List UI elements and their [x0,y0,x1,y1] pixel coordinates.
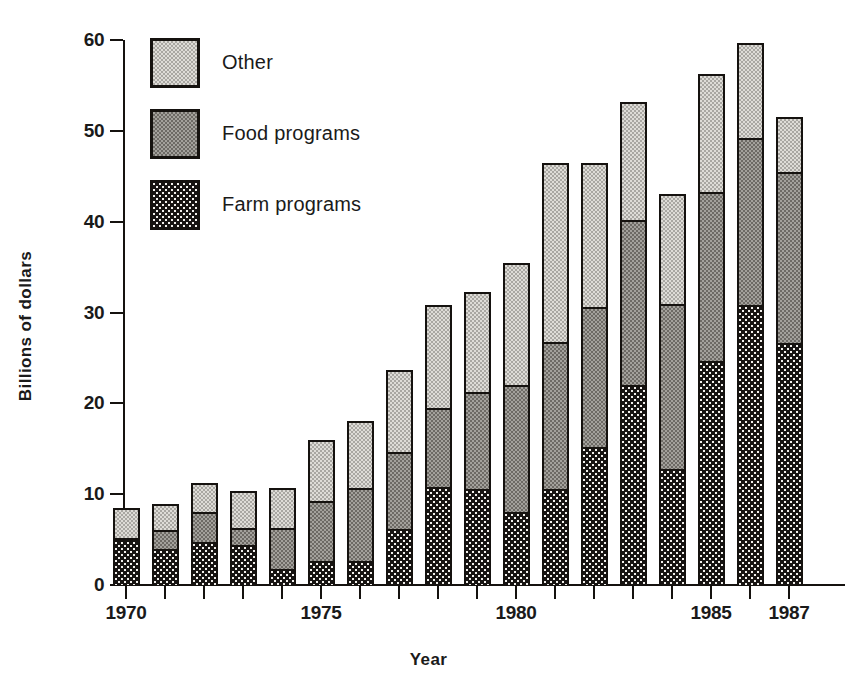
y-tick-label: 40 [52,212,104,231]
y-tick-label: 30 [52,303,104,322]
bar-segment-other [152,504,179,529]
bar-segment-food-programs [347,488,374,562]
bar-column[interactable] [269,0,296,585]
bar-segment-food-programs [620,220,647,385]
bar-segment-food-programs [386,452,413,528]
bar-column[interactable] [113,0,140,585]
bar-segment-farm-programs [191,542,218,585]
x-tick-mark [671,586,673,599]
bar-segment-other [347,421,374,488]
bar-segment-other [776,117,803,172]
x-tick-mark [203,586,205,599]
bar-segment-farm-programs [659,469,686,585]
x-tick-mark [320,586,322,599]
bar-segment-other [308,440,335,502]
bar-segment-other [425,305,452,408]
bar-segment-other [464,292,491,392]
bar-segment-food-programs [464,392,491,489]
bar-segment-food-programs [776,172,803,344]
x-tick-mark [359,586,361,599]
bar-segment-other [386,370,413,453]
x-tick-mark [788,586,790,599]
bar-column[interactable] [581,0,608,585]
x-axis-title: Year [0,650,857,670]
x-tick-mark [554,586,556,599]
bar-segment-food-programs [659,304,686,468]
bar-segment-farm-programs [776,343,803,585]
bar-segment-other [503,263,530,385]
bar-segment-other [737,43,764,138]
bar-column[interactable] [698,0,725,585]
bar-segment-farm-programs [386,529,413,585]
y-tick-label: 20 [52,393,104,412]
bar-column[interactable] [425,0,452,585]
bar-segment-farm-programs [503,512,530,585]
bar-segment-food-programs [581,307,608,447]
x-tick-mark [632,586,634,599]
stacked-bar-chart: 0102030405060 19701975198019851987 Billi… [0,0,857,689]
bar-segment-food-programs [698,192,725,361]
x-tick-mark [710,586,712,599]
bar-segment-other [269,488,296,528]
bar-segment-food-programs [308,501,335,561]
bar-segment-farm-programs [620,385,647,585]
bar-column[interactable] [347,0,374,585]
bar-segment-other [620,102,647,220]
x-tick-mark [281,586,283,599]
bar-segment-food-programs [425,408,452,487]
bar-segment-farm-programs [737,305,764,585]
x-tick-label: 1985 [690,602,731,624]
bar-segment-farm-programs [230,545,257,585]
bar-segment-food-programs [152,530,179,549]
x-tick-mark [164,586,166,599]
bar-segment-other [113,508,140,538]
x-tick-mark [476,586,478,599]
bar-segment-farm-programs [308,561,335,585]
y-tick-label: 50 [52,121,104,140]
bar-column[interactable] [230,0,257,585]
y-tick-label: 0 [52,575,104,594]
bar-segment-farm-programs [347,561,374,585]
bar-column[interactable] [191,0,218,585]
x-tick-label: 1975 [300,602,341,624]
x-tick-label: 1970 [105,602,146,624]
y-tick-label: 60 [52,30,104,49]
bar-segment-food-programs [503,385,530,512]
bar-segment-other [542,163,569,343]
bar-segment-other [659,194,686,304]
bar-segment-farm-programs [152,549,179,585]
y-axis-title: Billions of dollars [16,226,36,426]
bar-column[interactable] [737,0,764,585]
bar-segment-farm-programs [464,489,491,585]
bar-segment-food-programs [113,538,140,540]
x-tick-mark [515,586,517,599]
bar-column[interactable] [308,0,335,585]
bar-column[interactable] [659,0,686,585]
bar-segment-farm-programs [542,489,569,585]
x-tick-mark [749,586,751,599]
bar-segment-other [230,491,257,527]
bar-column[interactable] [542,0,569,585]
bar-segment-food-programs [269,528,296,569]
bar-column[interactable] [464,0,491,585]
bar-segment-farm-programs [581,447,608,585]
bar-column[interactable] [386,0,413,585]
bar-column[interactable] [503,0,530,585]
x-tick-mark [437,586,439,599]
x-tick-label: 1980 [495,602,536,624]
bar-column[interactable] [620,0,647,585]
bar-segment-other [191,483,218,512]
x-tick-mark [593,586,595,599]
x-tick-mark [398,586,400,599]
bar-segment-food-programs [230,528,257,545]
bar-segment-other [698,74,725,192]
x-tick-mark [242,586,244,599]
bar-segment-food-programs [737,138,764,305]
bar-column[interactable] [776,0,803,585]
bar-segment-food-programs [191,512,218,542]
bar-segment-farm-programs [698,361,725,585]
bar-segment-food-programs [542,342,569,488]
y-tick-label: 10 [52,484,104,503]
bar-segment-other [581,163,608,307]
bar-column[interactable] [152,0,179,585]
